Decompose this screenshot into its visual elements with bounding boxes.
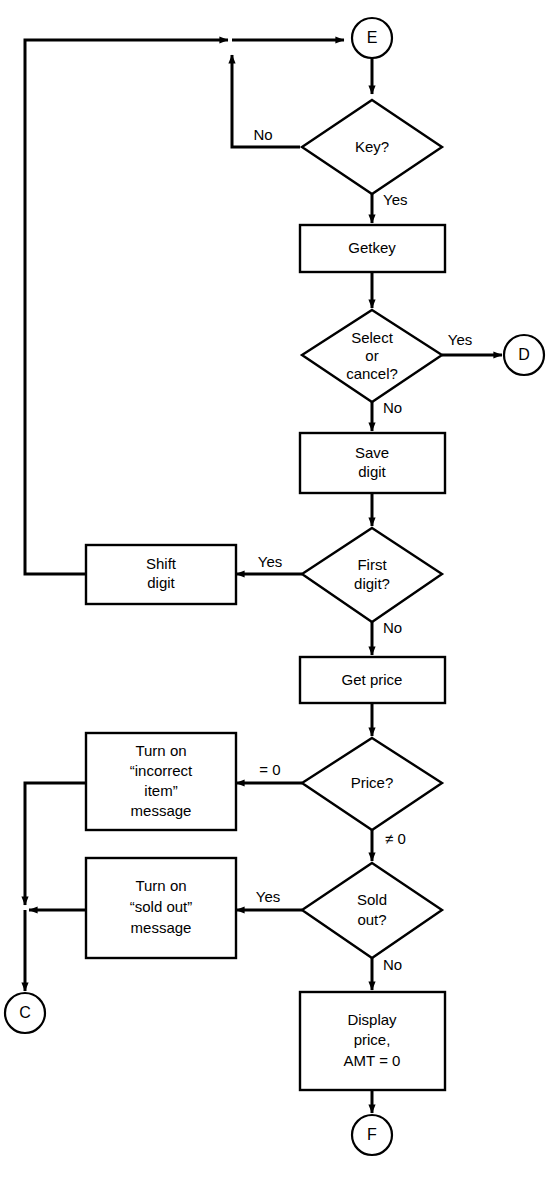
process-get-price-label: Get price: [342, 671, 403, 688]
edge-label-sold-out-no: No: [383, 956, 402, 973]
process-get-price: Get price: [300, 657, 445, 703]
decision-first-digit-line1: First: [357, 556, 387, 573]
decision-select-cancel-line1: Select: [351, 329, 394, 346]
edge-label-key-yes: Yes: [383, 191, 407, 208]
process-sold-out-message-line1: Turn on: [135, 877, 186, 894]
edge-label-key-no: No: [253, 126, 272, 143]
process-incorrect-item-line2: “incorrect: [130, 762, 193, 779]
edge-label-price-nonzero: ≠ 0: [385, 830, 406, 847]
edge-label-sold-out-yes: Yes: [256, 888, 280, 905]
edge-label-first-digit-yes: Yes: [258, 553, 282, 570]
decision-sold-out-line2: out?: [357, 911, 386, 928]
process-incorrect-item-line1: Turn on: [135, 742, 186, 759]
decision-sold-out: Sold out?: [302, 863, 442, 958]
edge-label-select-cancel-yes: Yes: [448, 331, 472, 348]
connector-d: D: [504, 335, 544, 375]
edge-label-select-cancel-no: No: [383, 399, 402, 416]
edge-shift-digit-to-e: [25, 40, 228, 574]
process-incorrect-item-line3: item”: [144, 782, 177, 799]
connector-f-label: F: [367, 1126, 377, 1143]
process-sold-out-message-line2: “sold out”: [130, 898, 193, 915]
connector-c: C: [5, 993, 45, 1033]
flowchart-svg: E Key? Getkey Select or cancel? D Save: [0, 0, 556, 1177]
decision-price: Price?: [302, 738, 442, 830]
edge-incorrect-to-c-rail: [25, 783, 86, 905]
decision-price-label: Price?: [351, 774, 394, 791]
process-save-digit-line1: Save: [355, 444, 389, 461]
connector-f: F: [352, 1115, 392, 1155]
decision-first-digit: First digit?: [302, 528, 442, 622]
process-getkey: Getkey: [300, 225, 445, 272]
process-incorrect-item-line4: message: [131, 802, 192, 819]
decision-sold-out-line1: Sold: [357, 891, 387, 908]
connector-c-label: C: [19, 1004, 31, 1021]
process-sold-out-message: Turn on “sold out” message: [86, 858, 236, 958]
connector-e-label: E: [367, 29, 378, 46]
decision-select-cancel: Select or cancel?: [302, 310, 442, 402]
process-display-price: Display price, AMT = 0: [300, 992, 445, 1090]
edge-label-price-zero: = 0: [259, 761, 280, 778]
process-getkey-label: Getkey: [348, 239, 396, 256]
process-save-digit: Save digit: [300, 433, 445, 493]
decision-key: Key?: [302, 100, 442, 194]
process-shift-digit-line2: digit: [147, 574, 175, 591]
connector-d-label: D: [518, 346, 530, 363]
decision-select-cancel-line2: or: [365, 347, 378, 364]
decision-first-digit-line2: digit?: [354, 575, 390, 592]
process-display-price-line3: AMT = 0: [344, 1052, 401, 1069]
process-incorrect-item: Turn on “incorrect item” message: [86, 733, 236, 830]
process-shift-digit-line1: Shift: [146, 555, 177, 572]
decision-key-label: Key?: [355, 138, 389, 155]
process-display-price-line2: price,: [354, 1031, 391, 1048]
edge-label-first-digit-no: No: [383, 619, 402, 636]
connector-e: E: [352, 18, 392, 58]
process-sold-out-message-line3: message: [131, 919, 192, 936]
process-display-price-line1: Display: [347, 1011, 397, 1028]
process-shift-digit: Shift digit: [86, 545, 236, 604]
flowchart-canvas: E Key? Getkey Select or cancel? D Save: [0, 0, 556, 1177]
decision-select-cancel-line3: cancel?: [346, 365, 398, 382]
process-save-digit-line2: digit: [358, 463, 386, 480]
